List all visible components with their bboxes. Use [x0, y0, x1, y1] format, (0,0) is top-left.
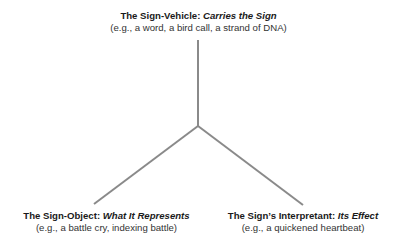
node-sign-vehicle: The Sign-Vehicle: Carries the Sign (e.g.…	[0, 10, 397, 34]
title-emphasis: What It Represents	[103, 210, 190, 221]
title-emphasis: Carries the Sign	[203, 10, 277, 21]
edge-to-sign-object	[94, 126, 198, 204]
title-prefix: The Sign’s Interpretant:	[228, 210, 338, 221]
node-title: The Sign’s Interpretant: Its Effect	[210, 210, 396, 222]
edge-to-interpretant	[198, 126, 303, 205]
node-title: The Sign-Vehicle: Carries the Sign	[0, 10, 397, 22]
node-sign-object: The Sign-Object: What It Represents (e.g…	[0, 210, 213, 234]
node-example: (e.g., a word, a bird call, a strand of …	[0, 22, 397, 34]
title-prefix: The Sign-Object:	[23, 210, 102, 221]
node-title: The Sign-Object: What It Represents	[0, 210, 213, 222]
node-example: (e.g., a battle cry, indexing battle)	[0, 222, 213, 234]
title-emphasis: Its Effect	[338, 210, 378, 221]
title-prefix: The Sign-Vehicle:	[120, 10, 203, 21]
connector-lines	[0, 0, 403, 239]
node-example: (e.g., a quickened heartbeat)	[210, 222, 396, 234]
node-interpretant: The Sign’s Interpretant: Its Effect (e.g…	[210, 210, 396, 234]
